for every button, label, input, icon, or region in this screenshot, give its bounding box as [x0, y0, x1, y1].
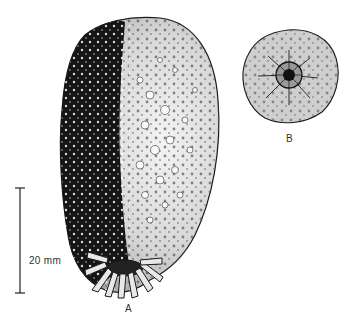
scale-bar-label: 20 mm: [29, 255, 61, 266]
illustration: [0, 0, 360, 325]
specimen-a: [55, 15, 220, 300]
specimen-b: [243, 30, 338, 123]
specimen-a-label: A: [125, 303, 132, 314]
figure: 20 mm A B: [0, 0, 360, 325]
scale-bar: [15, 188, 25, 293]
specimen-b-label: B: [286, 133, 293, 144]
